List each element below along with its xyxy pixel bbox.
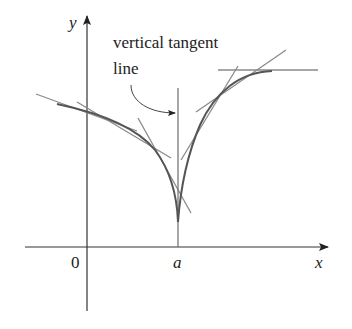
tangent-line-right-1 (181, 66, 238, 160)
x-axis-label: x (314, 253, 323, 272)
y-axis-label: y (67, 13, 77, 32)
point-a-label: a (173, 253, 182, 272)
cusp-curve (57, 71, 272, 222)
tangent-line-right-2 (196, 50, 286, 112)
tangent-diagram: y x 0 a vertical tangent line (0, 0, 352, 329)
annotation-line-2: line (113, 59, 139, 78)
annotation-arrow (131, 85, 175, 113)
annotation-line-1: vertical tangent (113, 33, 219, 52)
origin-label: 0 (71, 253, 80, 272)
